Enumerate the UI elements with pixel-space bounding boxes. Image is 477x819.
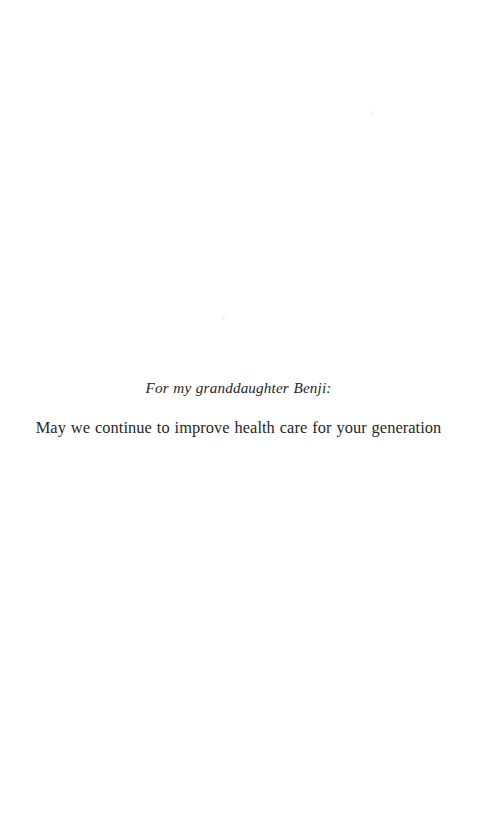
dedication-page: For my granddaughter Benji: May we conti… — [0, 0, 477, 819]
dedication-message: May we continue to improve health care f… — [0, 417, 477, 439]
dedication-salutation: For my granddaughter Benji: — [0, 378, 477, 398]
dedication-block: For my granddaughter Benji: May we conti… — [0, 378, 477, 439]
scan-speck-icon — [222, 316, 225, 320]
scan-speck-icon — [371, 111, 374, 115]
